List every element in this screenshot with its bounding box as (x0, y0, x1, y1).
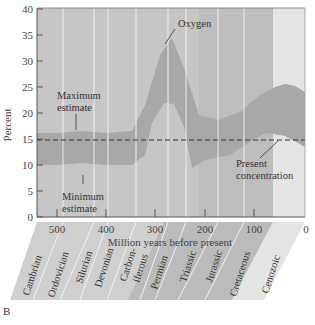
oxygen-label: Oxygen (178, 18, 212, 29)
panel-label: B (3, 305, 10, 317)
x-tick-100: 100 (246, 223, 263, 235)
x-tick-500: 500 (49, 223, 66, 235)
y-tick-15: 15 (22, 133, 34, 145)
x-axis-label: Million years before present (108, 236, 232, 248)
present-concentration-label-2: concentration (236, 170, 294, 181)
y-tick-35: 35 (22, 29, 34, 41)
minimum-estimate-label-1: Minimum (62, 191, 104, 202)
x-tick-0: 0 (303, 223, 309, 235)
y-tick-0: 0 (28, 211, 34, 223)
present-concentration-label-1: Present (236, 158, 267, 169)
minimum-estimate-label-2: estimate (62, 203, 97, 214)
maximum-estimate-label-1: Maximum (57, 90, 101, 101)
y-tick-5: 5 (28, 185, 34, 197)
oxygen-chart: 0 5 10 15 20 25 30 35 40 Percent 500 400… (0, 0, 315, 325)
y-tick-25: 25 (22, 81, 34, 93)
x-tick-400: 400 (98, 223, 115, 235)
x-tick-200: 200 (197, 223, 214, 235)
y-axis-label: Percent (1, 109, 13, 142)
y-tick-40: 40 (22, 3, 34, 15)
y-tick-10: 10 (22, 159, 34, 171)
x-tick-300: 300 (147, 223, 164, 235)
y-tick-20: 20 (22, 107, 34, 119)
y-tick-30: 30 (22, 55, 34, 67)
maximum-estimate-label-2: estimate (57, 102, 92, 113)
